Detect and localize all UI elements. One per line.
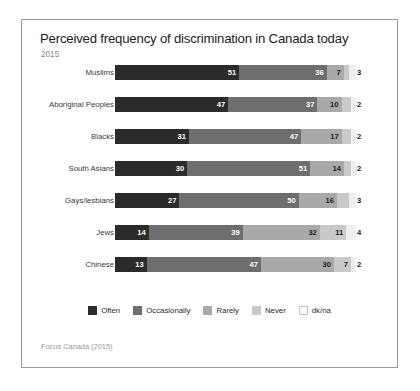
legend-label: dk/na [312, 306, 331, 315]
bar-value-label: 10 [330, 97, 338, 112]
bar-segment-occasionally: 39 [149, 225, 243, 240]
legend-item-never[interactable]: Never [252, 306, 286, 315]
bar-value-label: 13 [135, 257, 143, 272]
bar-value-label: 3 [357, 193, 361, 208]
bar-value-label: 36 [315, 65, 323, 80]
legend-item-often[interactable]: Often [88, 306, 120, 315]
bar-value-label: 16 [325, 193, 333, 208]
legend-swatch-icon [252, 306, 261, 315]
category-label: Aboriginal Peoples [22, 97, 114, 112]
bar-segment-often: 31 [115, 129, 189, 144]
bar-segment-rarely: 10 [317, 97, 341, 112]
chart-row: Aboriginal Peoples47371042 [22, 97, 397, 112]
bar-segment-often: 14 [115, 225, 149, 240]
bar-segment-dk-na: 2 [351, 129, 356, 144]
bar-segment-occasionally: 50 [179, 193, 298, 208]
bar-value-label: 7 [344, 257, 348, 272]
legend-swatch-icon [88, 306, 97, 315]
chart-row: Muslims5136723 [22, 65, 397, 80]
bar-segment-occasionally: 47 [147, 257, 261, 272]
chart-row: Gays/lesbians27501653 [22, 193, 397, 208]
bar-segment-never: 4 [342, 97, 352, 112]
bar-value-label: 14 [332, 161, 340, 176]
stacked-bar: 143932114 [115, 225, 356, 240]
bar-segment-occasionally: 47 [189, 129, 301, 144]
bar-value-label: 47 [217, 97, 225, 112]
bar-value-label: 2 [357, 161, 361, 176]
bar-value-label: 3 [357, 65, 361, 80]
stacked-bar: 27501653 [115, 193, 356, 208]
legend-item-rarely[interactable]: Rarely [203, 306, 239, 315]
chart-panel: Perceived frequency of discrimination in… [21, 19, 398, 368]
chart-source-note: Focus Canada (2015) [41, 342, 113, 351]
bar-segment-occasionally: 36 [239, 65, 327, 80]
legend-swatch-icon [133, 306, 142, 315]
bar-segment-dk-na: 2 [351, 257, 356, 272]
legend-label: Never [265, 306, 286, 315]
bar-segment-often: 47 [115, 97, 228, 112]
legend-label: Rarely [216, 306, 239, 315]
legend-swatch-icon [299, 306, 308, 315]
bar-value-label: 30 [323, 257, 331, 272]
bar-value-label: 31 [178, 129, 186, 144]
chart-legend: OftenOccasionallyRarelyNeverdk/na [22, 303, 397, 317]
legend-label: Occasionally [146, 306, 190, 315]
bar-segment-dk-na: 4 [346, 225, 356, 240]
bar-value-label: 39 [231, 225, 239, 240]
bar-segment-never: 7 [334, 257, 351, 272]
bar-segment-rarely: 16 [299, 193, 337, 208]
bar-value-label: 50 [287, 193, 295, 208]
bar-segment-rarely: 32 [243, 225, 320, 240]
bar-value-label: 2 [357, 257, 361, 272]
bar-segment-often: 30 [115, 161, 187, 176]
bar-segment-often: 27 [115, 193, 179, 208]
legend-item-dk-na[interactable]: dk/na [299, 306, 331, 315]
category-label: Jews [22, 225, 114, 240]
bar-value-label: 51 [299, 161, 307, 176]
category-label: Blacks [22, 129, 114, 144]
bar-value-label: 37 [306, 97, 314, 112]
bar-segment-often: 13 [115, 257, 147, 272]
bar-value-label: 7 [337, 65, 341, 80]
chart-plot-area: Muslims5136723Aboriginal Peoples47371042… [22, 65, 397, 295]
bar-value-label: 27 [168, 193, 176, 208]
category-label: Muslims [22, 65, 114, 80]
bar-value-label: 4 [357, 225, 361, 240]
bar-segment-occasionally: 51 [187, 161, 310, 176]
bar-segment-rarely: 14 [310, 161, 344, 176]
stacked-bar: 5136723 [115, 65, 356, 80]
bar-segment-rarely: 30 [261, 257, 334, 272]
bar-value-label: 32 [308, 225, 316, 240]
bar-segment-dk-na: 3 [349, 65, 356, 80]
category-label: Gays/lesbians [22, 193, 114, 208]
stacked-bar: 47371042 [115, 97, 356, 112]
stacked-bar: 31471742 [115, 129, 356, 144]
bar-segment-occasionally: 37 [228, 97, 317, 112]
bar-segment-dk-na: 3 [349, 193, 356, 208]
bar-value-label: 51 [228, 65, 236, 80]
bar-value-label: 2 [357, 129, 361, 144]
bar-value-label: 30 [176, 161, 184, 176]
category-label: South Asians [22, 161, 114, 176]
bar-segment-rarely: 7 [327, 65, 344, 80]
bar-value-label: 47 [290, 129, 298, 144]
chart-row: South Asians30511432 [22, 161, 397, 176]
bar-segment-never: 11 [320, 225, 347, 240]
stacked-bar: 13473072 [115, 257, 356, 272]
bar-segment-often: 51 [115, 65, 239, 80]
chart-row: Jews143932114 [22, 225, 397, 240]
legend-item-occasionally[interactable]: Occasionally [133, 306, 190, 315]
chart-title: Perceived frequency of discrimination in… [40, 31, 348, 46]
bar-segment-rarely: 17 [301, 129, 342, 144]
bar-value-label: 11 [335, 225, 343, 240]
bar-value-label: 14 [137, 225, 145, 240]
chart-row: Chinese13473072 [22, 257, 397, 272]
stacked-bar: 30511432 [115, 161, 356, 176]
bar-value-label: 2 [357, 97, 361, 112]
chart-row: Blacks31471742 [22, 129, 397, 144]
category-label: Chinese [22, 257, 114, 272]
bar-value-label: 47 [250, 257, 258, 272]
chart-subtitle: 2015 [41, 50, 59, 59]
bar-segment-dk-na: 2 [351, 161, 356, 176]
bar-segment-never: 5 [337, 193, 349, 208]
